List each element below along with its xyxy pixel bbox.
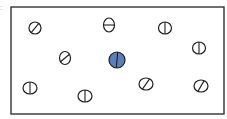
split-circle [29,22,41,34]
split-circle [60,52,71,65]
highlighted-circle [109,52,125,68]
split-circle [194,80,208,92]
diagram-canvas [0,0,227,119]
split-circle [104,18,115,32]
split-circle [23,82,37,94]
split-circle [159,22,172,34]
circle-group [23,18,208,102]
split-circle [193,42,206,54]
split-circle [78,90,92,102]
split-circle [139,78,153,90]
